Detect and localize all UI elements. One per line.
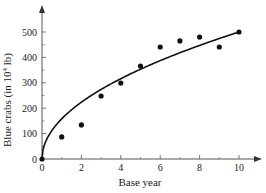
y-tick-label: 100	[22, 128, 37, 139]
blue-crabs-chart: 02468100100200300400500 Base year Blue c…	[0, 0, 266, 193]
data-point	[217, 44, 222, 49]
y-tick-label: 400	[22, 52, 37, 63]
data-point	[59, 134, 64, 139]
x-axis-label: Base year	[118, 176, 161, 188]
y-axis-arrow-icon	[39, 5, 45, 13]
x-tick-label: 6	[158, 162, 163, 173]
data-point	[236, 29, 241, 34]
y-tick-label: 500	[22, 27, 37, 38]
data-point	[177, 38, 182, 43]
fitted-curve	[42, 32, 239, 159]
y-axis-label: Blue crabs (in 104 lb)	[1, 53, 14, 147]
y-tick-label: 200	[22, 103, 37, 114]
data-point	[138, 63, 143, 68]
data-point	[39, 156, 44, 161]
data-point	[118, 80, 123, 85]
x-tick-label: 4	[118, 162, 123, 173]
x-axis-arrow-icon	[254, 156, 262, 162]
x-tick-label: 8	[197, 162, 202, 173]
x-tick-label: 2	[79, 162, 84, 173]
axes: 02468100100200300400500	[22, 5, 262, 173]
y-tick-label: 300	[22, 77, 37, 88]
y-tick-label: 0	[32, 154, 37, 165]
data-point	[79, 122, 84, 127]
x-tick-label: 0	[40, 162, 45, 173]
data-point	[158, 44, 163, 49]
data-point	[197, 34, 202, 39]
x-tick-label: 10	[234, 162, 244, 173]
data-point	[99, 93, 104, 98]
data-points	[39, 29, 241, 161]
